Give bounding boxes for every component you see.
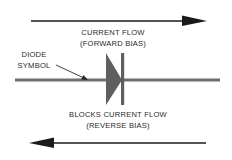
diode-label-line2: SYMBOL	[18, 61, 51, 71]
forward-label-line1: CURRENT FLOW	[81, 28, 144, 38]
reverse-arrow-icon	[29, 138, 206, 149]
forward-label-line2: (FORWARD BIAS)	[80, 39, 146, 49]
reverse-label-line1: BLOCKS CURRENT FLOW	[69, 110, 167, 120]
diode-diagram	[0, 0, 232, 160]
diode-label-line1: DIODE	[21, 50, 46, 60]
forward-arrow-icon	[31, 16, 207, 27]
reverse-label-line2: (REVERSE BIAS)	[86, 121, 150, 131]
diode-symbol-icon	[106, 53, 124, 105]
pointer-arrow-icon	[56, 65, 88, 80]
